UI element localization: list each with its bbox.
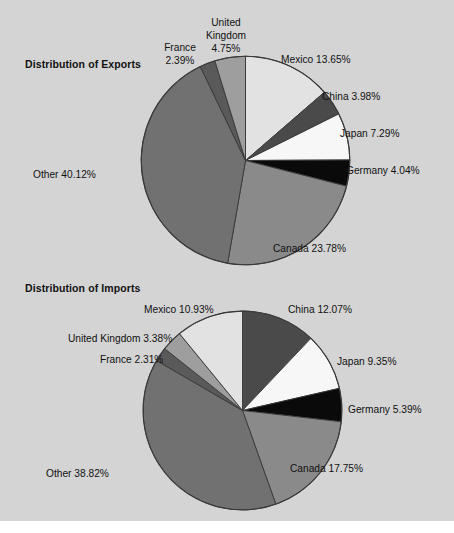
- figure-canvas: Distribution of Exports Mexico 13.65% Ch…: [0, 0, 454, 533]
- imports-chart-title: Distribution of Imports: [25, 282, 140, 294]
- imports-label-mexico: Mexico 10.93%: [144, 303, 214, 316]
- exports-label-other: Other 40.12%: [33, 168, 96, 181]
- exports-pie-chart: [138, 53, 353, 268]
- exports-label-france: France 2.39%: [154, 41, 206, 67]
- exports-label-china: China 3.98%: [322, 90, 380, 103]
- exports-chart-panel: Distribution of Exports Mexico 13.65% Ch…: [0, 0, 454, 270]
- imports-label-japan: Japan 9.35%: [337, 355, 396, 368]
- imports-label-germany: Germany 5.39%: [348, 403, 422, 416]
- exports-label-japan: Japan 7.29%: [340, 127, 399, 140]
- imports-label-other: Other 38.82%: [46, 467, 109, 480]
- imports-label-united-kingdom: United Kingdom 3.38%: [68, 332, 172, 345]
- exports-label-canada: Canada 23.78%: [273, 242, 346, 255]
- imports-label-france: France 2.31%: [100, 353, 163, 366]
- imports-label-canada: Canada 17.75%: [290, 462, 363, 475]
- imports-chart-panel: Distribution of Imports China 12.07% Jap…: [0, 270, 454, 521]
- exports-label-germany: Germany 4.04%: [346, 164, 420, 177]
- exports-pie-svg: [138, 53, 353, 268]
- exports-chart-title: Distribution of Exports: [25, 58, 141, 70]
- exports-label-mexico: Mexico 13.65%: [281, 53, 351, 66]
- imports-label-china: China 12.07%: [288, 303, 352, 316]
